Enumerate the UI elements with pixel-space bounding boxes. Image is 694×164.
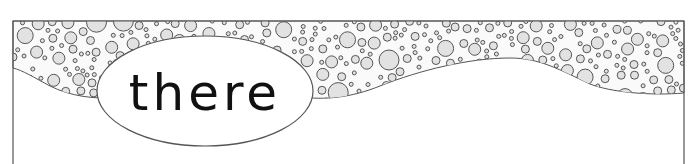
bubble-decoration [591,37,603,49]
bubble-decoration [418,56,422,60]
bubble-decoration [485,49,489,53]
bubble-decoration [438,40,454,56]
bubble-decoration [439,96,443,100]
bubble-decoration [357,89,361,93]
bubble-decoration [129,30,133,34]
bubble-decoration [435,31,439,35]
bubble-decoration [447,29,451,33]
bubble-decoration [49,34,57,42]
bubble-decoration [443,70,447,74]
bubble-decoration [589,59,593,63]
bubble-decoration [233,31,237,35]
bubble-decoration [510,30,514,34]
bubble-decoration [519,24,523,28]
bubble-decoration [613,25,621,33]
bubble-decoration [582,21,586,25]
bubble-decoration [450,72,454,76]
bubble-decoration [658,57,674,73]
bubble-decoration [631,33,643,45]
bubble-decoration [601,75,609,83]
bubble-decoration [593,29,597,33]
bubble-decoration [88,79,96,87]
bubble-decoration [489,42,497,50]
bubble-decoration [357,23,365,31]
bubble-decoration [678,54,682,58]
bubble-decoration [400,46,404,50]
bubble-decoration [460,40,468,48]
bubble-decoration [334,35,338,39]
bubble-decoration [550,24,554,28]
bubble-decoration [368,52,372,56]
bubble-decoration [550,87,554,91]
bubble-decoration [642,62,646,66]
bubble-decoration [645,69,649,73]
bubble-decoration [361,57,373,69]
bubble-decoration [551,57,555,61]
bubble-decoration [56,29,60,33]
bubble-decoration [616,54,620,58]
bubble-decoration [69,96,77,104]
bubble-decoration [497,34,501,38]
bubble-decoration [446,59,454,67]
bubble-decoration [62,87,70,95]
bubble-decoration [491,88,503,100]
bubble-decoration [53,52,65,64]
bubble-decoration [31,67,35,71]
bubble-decoration [548,30,552,34]
bubble-decoration [564,18,576,30]
bubble-decoration [511,66,515,70]
bubble-decoration [327,38,331,42]
bubble-decoration [578,42,582,46]
bubble-decoration [87,12,107,32]
bubble-decoration [622,43,634,55]
bubble-decoration [22,54,26,58]
bubble-decoration [412,44,416,48]
bubble-decoration [318,86,326,94]
bubble-decoration [596,53,600,57]
bubble-decoration [475,38,479,42]
bubble-decoration [313,32,317,36]
bubble-decoration [518,69,526,77]
bubble-decoration [368,37,380,49]
bubble-decoration [554,64,558,68]
bubble-decoration [474,28,478,32]
bubble-decoration [13,95,17,99]
bubble-decoration [383,26,387,30]
bubble-decoration [317,68,329,80]
bubble-decoration [468,84,472,88]
bubble-decoration [553,77,561,85]
bubble-decoration [504,19,512,27]
bubble-decoration [68,72,72,76]
bubble-decoration [432,57,440,65]
bubble-decoration [645,44,649,48]
bubble-decoration [560,49,572,61]
bubble-decoration [494,52,498,56]
bubble-decoration [92,58,96,62]
bubble-decoration [654,49,662,57]
bubble-decoration [599,93,611,105]
bubble-decoration [647,32,651,36]
bubble-decoration [338,73,346,81]
bubble-decoration [344,62,348,66]
bubble-decoration [46,28,50,32]
bubble-decoration [576,55,584,63]
bubble-decoration [15,71,19,75]
bubble-decoration [594,65,598,69]
bubble-decoration [587,97,591,101]
bubble-decoration [406,96,410,100]
bubble-decoration [48,74,60,86]
bubble-decoration [326,56,338,68]
bubble-decoration [426,47,430,51]
bubble-decoration [671,32,675,36]
bubble-decoration [344,23,348,27]
bubble-decoration [75,67,79,71]
bubble-decoration [481,89,489,97]
bubble-decoration [471,78,475,82]
bubble-decoration [65,32,77,44]
bubble-decoration [340,32,356,48]
bubble-decoration [301,25,305,29]
bubble-decoration [69,45,77,53]
bubble-decoration [604,50,612,58]
bubble-decoration [528,70,532,74]
bubble-decoration [90,66,94,70]
